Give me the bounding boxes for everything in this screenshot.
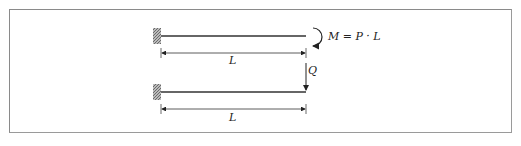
- svg-text:L: L: [228, 54, 236, 67]
- cantilever-diagram: M = P · L L Q L: [0, 0, 521, 146]
- bottom-wall-support: [153, 84, 161, 100]
- moment-arrow-icon: [313, 28, 322, 46]
- force-label: Q: [308, 64, 317, 77]
- top-wall-support: [153, 28, 161, 44]
- svg-text:Q: Q: [308, 64, 317, 77]
- moment-label: M = P · L: [327, 30, 381, 43]
- bottom-cantilever: Q L: [153, 63, 317, 124]
- bottom-length-label: L: [228, 111, 236, 124]
- top-cantilever: M = P · L L: [153, 28, 381, 67]
- top-length-label: L: [228, 54, 236, 67]
- svg-text:M = P · L: M = P · L: [327, 30, 381, 43]
- svg-text:L: L: [228, 111, 236, 124]
